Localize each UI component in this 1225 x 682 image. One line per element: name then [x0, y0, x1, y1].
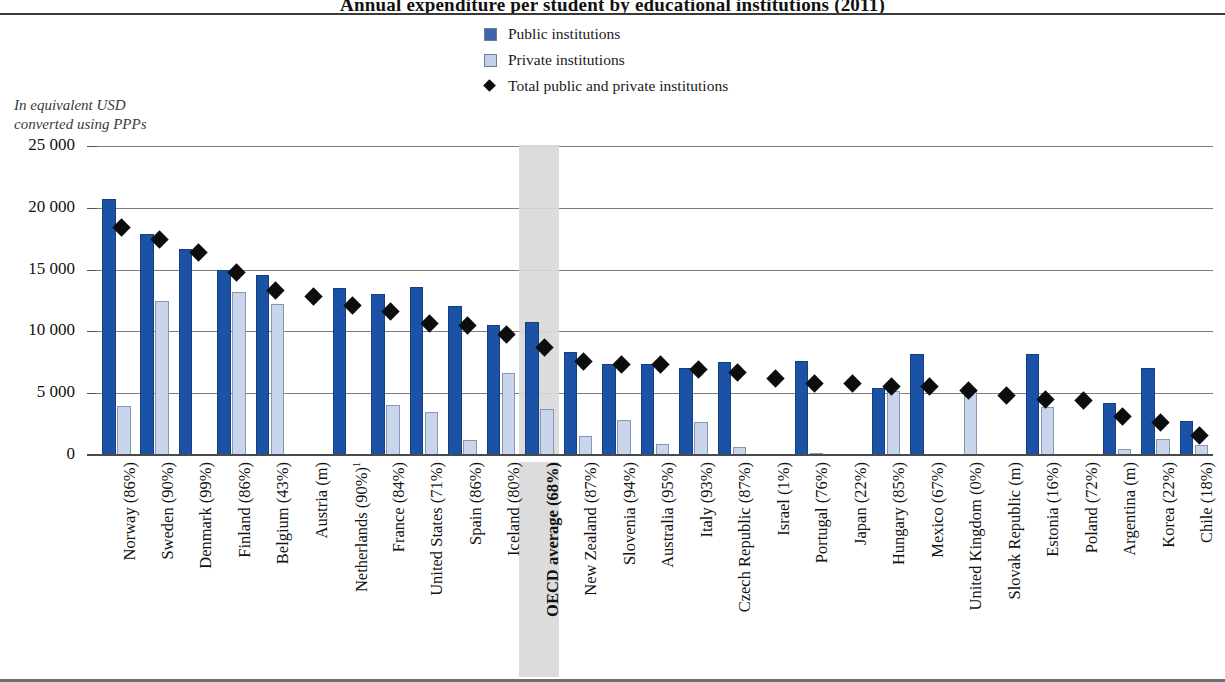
title-divider [0, 13, 1225, 15]
category-label: United States (71%) [429, 462, 446, 596]
category-label: Belgium (43%) [275, 462, 292, 564]
category-label: Czech Republic (87%) [737, 462, 754, 612]
y-tick-mark [87, 270, 97, 271]
y-axis-tick-label: 10 000 [0, 320, 75, 340]
category-label: Chile (18%) [1199, 462, 1216, 543]
y-tick-mark [87, 331, 97, 332]
category-label: Korea (22%) [1161, 462, 1178, 548]
category-label: New Zealand (87%) [583, 462, 600, 596]
legend-item-total: Total public and private institutions [484, 74, 728, 98]
category-label: Spain (86%) [468, 462, 485, 545]
total-marker-diamond [767, 370, 785, 388]
category-label: Israel (1%) [776, 462, 793, 536]
total-marker-diamond [382, 302, 400, 320]
y-tick-mark [87, 393, 97, 394]
plot-area: 05 00010 00015 00020 00025 000 [97, 146, 1213, 455]
legend-label-public: Public institutions [508, 25, 620, 43]
total-marker-diamond [690, 361, 708, 379]
category-label: Hungary (85%) [891, 462, 908, 565]
legend-diamond-icon [484, 80, 497, 93]
total-marker-diamond [959, 381, 977, 399]
category-label: Portugal (76%) [814, 462, 831, 563]
x-axis-line [87, 454, 1213, 456]
category-label: OECD average (68%) [545, 462, 562, 617]
total-marker-diamond [1074, 391, 1092, 409]
category-labels: Norway (86%)Sweden (90%)Denmark (99%)Fin… [97, 462, 1213, 677]
total-marker-diamond [843, 374, 861, 392]
legend-item-public: Public institutions [484, 22, 728, 46]
category-label: Netherlands (90%)1 [352, 462, 370, 592]
total-marker-diamond [536, 338, 554, 356]
total-marker-diamond [997, 386, 1015, 404]
total-marker-diamond [1151, 414, 1169, 432]
total-marker-diamond [651, 356, 669, 374]
category-label: Slovenia (94%) [622, 462, 639, 565]
category-label: Norway (86%) [122, 462, 139, 561]
total-marker-diamond [1036, 390, 1054, 408]
legend-label-private: Private institutions [508, 51, 625, 69]
category-label: Denmark (99%) [198, 462, 215, 569]
legend-swatch-private-icon [484, 54, 497, 67]
category-label: Slovak Republic (m) [1007, 462, 1024, 599]
markers-layer [97, 146, 1213, 455]
total-marker-diamond [728, 363, 746, 381]
total-marker-diamond [112, 218, 130, 236]
category-label: Poland (72%) [1084, 462, 1101, 553]
legend-item-private: Private institutions [484, 48, 728, 72]
total-marker-diamond [497, 325, 515, 343]
y-axis-tick-label: 20 000 [0, 197, 75, 217]
total-marker-diamond [574, 352, 592, 370]
legend-swatch-public-icon [484, 28, 497, 41]
chart-legend: Public institutions Private institutions… [484, 22, 728, 100]
y-axis-unit-line2: converted using PPPs [14, 115, 204, 134]
y-axis-tick-label: 5 000 [0, 382, 75, 402]
y-axis-tick-label: 0 [0, 444, 75, 464]
category-label: Estonia (16%) [1045, 462, 1062, 557]
total-marker-diamond [305, 288, 323, 306]
y-axis-unit-note: In equivalent USD converted using PPPs [14, 96, 204, 134]
total-marker-diamond [805, 375, 823, 393]
figure-root: Annual expenditure per student by educat… [0, 0, 1225, 682]
category-label: Australia (95%) [660, 462, 677, 568]
category-label: Argentina (m) [1122, 462, 1139, 556]
total-marker-diamond [228, 263, 246, 281]
category-label: Finland (86%) [237, 462, 254, 558]
total-marker-diamond [920, 377, 938, 395]
category-label: Japan (22%) [853, 462, 870, 545]
figure-title: Annual expenditure per student by educat… [0, 0, 1225, 13]
total-marker-diamond [613, 355, 631, 373]
y-axis-unit-line1: In equivalent USD [14, 96, 204, 115]
category-label: Iceland (80%) [506, 462, 523, 556]
total-marker-diamond [459, 316, 477, 334]
category-label: France (84%) [391, 462, 408, 552]
total-marker-diamond [1190, 426, 1208, 444]
category-label: Sweden (90%) [160, 462, 177, 560]
total-marker-diamond [266, 281, 284, 299]
legend-label-total: Total public and private institutions [508, 77, 728, 95]
y-axis-tick-label: 25 000 [0, 135, 75, 155]
category-label: Mexico (67%) [930, 462, 947, 558]
y-tick-mark [87, 146, 97, 147]
total-marker-diamond [189, 243, 207, 261]
total-marker-diamond [151, 231, 169, 249]
y-tick-mark [87, 208, 97, 209]
category-label: Austria (m) [314, 462, 331, 539]
y-axis-tick-label: 15 000 [0, 259, 75, 279]
total-marker-diamond [343, 296, 361, 314]
total-marker-diamond [882, 377, 900, 395]
category-label: Italy (93%) [699, 462, 716, 538]
category-label: United Kingdom (0%) [968, 462, 985, 610]
total-marker-diamond [420, 314, 438, 332]
total-marker-diamond [1113, 407, 1131, 425]
